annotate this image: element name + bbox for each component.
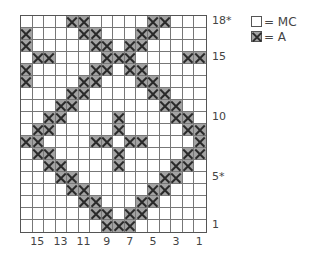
cell-contrast-a bbox=[90, 76, 102, 88]
cell-mc bbox=[113, 16, 125, 28]
cell-mc bbox=[67, 148, 79, 160]
cell-mc bbox=[194, 64, 206, 76]
cell-mc bbox=[79, 148, 91, 160]
cell-contrast-a bbox=[21, 136, 33, 148]
legend: = MC = A bbox=[251, 14, 297, 44]
cell-mc bbox=[125, 172, 137, 184]
cell-mc bbox=[67, 160, 79, 172]
cell-contrast-a bbox=[171, 112, 183, 124]
cell-mc bbox=[160, 52, 172, 64]
cell-mc bbox=[44, 220, 56, 232]
cell-mc bbox=[125, 124, 137, 136]
cell-contrast-a bbox=[125, 220, 137, 232]
cell-mc bbox=[171, 136, 183, 148]
cell-mc bbox=[136, 112, 148, 124]
cell-mc bbox=[102, 28, 114, 40]
cell-mc bbox=[160, 136, 172, 148]
cell-mc bbox=[67, 40, 79, 52]
cell-contrast-a bbox=[67, 16, 79, 28]
cell-mc bbox=[171, 148, 183, 160]
cell-mc bbox=[183, 136, 195, 148]
stitch-number-label: 3 bbox=[164, 235, 188, 248]
cell-mc bbox=[67, 76, 79, 88]
legend-label-mc: = MC bbox=[264, 15, 297, 29]
cell-mc bbox=[113, 76, 125, 88]
stitch-number-label: 13 bbox=[48, 235, 72, 248]
cell-mc bbox=[21, 208, 33, 220]
cell-mc bbox=[160, 148, 172, 160]
cell-contrast-a bbox=[113, 124, 125, 136]
cell-mc bbox=[113, 136, 125, 148]
cell-mc bbox=[67, 136, 79, 148]
cell-contrast-a bbox=[160, 100, 172, 112]
cell-contrast-a bbox=[79, 16, 91, 28]
cell-mc bbox=[148, 40, 160, 52]
cell-mc bbox=[79, 124, 91, 136]
cell-mc bbox=[171, 16, 183, 28]
cell-contrast-a bbox=[160, 88, 172, 100]
cell-mc bbox=[21, 160, 33, 172]
cell-mc bbox=[102, 184, 114, 196]
cell-mc bbox=[183, 16, 195, 28]
cell-mc bbox=[102, 16, 114, 28]
cell-contrast-a bbox=[79, 88, 91, 100]
cell-contrast-a bbox=[160, 16, 172, 28]
cell-mc bbox=[79, 112, 91, 124]
cell-contrast-a bbox=[183, 124, 195, 136]
stitch-number-label: 11 bbox=[72, 235, 96, 248]
cell-mc bbox=[136, 148, 148, 160]
cell-mc bbox=[125, 196, 137, 208]
cell-mc bbox=[194, 208, 206, 220]
cell-contrast-a bbox=[113, 148, 125, 160]
cell-mc bbox=[90, 148, 102, 160]
cell-contrast-a bbox=[79, 28, 91, 40]
cell-mc bbox=[125, 100, 137, 112]
cell-mc bbox=[113, 40, 125, 52]
cell-mc bbox=[171, 40, 183, 52]
legend-label-a: = A bbox=[264, 30, 286, 44]
cell-mc bbox=[194, 28, 206, 40]
cell-mc bbox=[183, 172, 195, 184]
cell-mc bbox=[171, 220, 183, 232]
cell-mc bbox=[21, 220, 33, 232]
cell-mc bbox=[33, 160, 45, 172]
contrast-a-swatch-icon bbox=[251, 31, 262, 42]
cell-mc bbox=[160, 112, 172, 124]
cell-mc bbox=[21, 124, 33, 136]
cell-contrast-a bbox=[125, 40, 137, 52]
cell-contrast-a bbox=[183, 52, 195, 64]
cell-mc bbox=[183, 220, 195, 232]
cell-mc bbox=[44, 100, 56, 112]
cell-contrast-a bbox=[90, 196, 102, 208]
cell-mc bbox=[113, 88, 125, 100]
cell-contrast-a bbox=[125, 64, 137, 76]
cell-mc bbox=[160, 124, 172, 136]
cell-mc bbox=[194, 16, 206, 28]
cell-contrast-a bbox=[90, 28, 102, 40]
cell-mc bbox=[56, 196, 68, 208]
cell-mc bbox=[183, 64, 195, 76]
row-number-label: 10 bbox=[212, 111, 226, 123]
cell-mc bbox=[56, 28, 68, 40]
cell-mc bbox=[33, 208, 45, 220]
cell-mc bbox=[33, 76, 45, 88]
cell-contrast-a bbox=[33, 148, 45, 160]
cell-contrast-a bbox=[90, 136, 102, 148]
cell-mc bbox=[160, 160, 172, 172]
cell-mc bbox=[183, 208, 195, 220]
cell-contrast-a bbox=[44, 124, 56, 136]
cell-mc bbox=[160, 76, 172, 88]
cell-contrast-a bbox=[56, 112, 68, 124]
cell-mc bbox=[44, 16, 56, 28]
cell-mc bbox=[56, 208, 68, 220]
cell-contrast-a bbox=[33, 136, 45, 148]
cell-mc bbox=[113, 196, 125, 208]
cell-mc bbox=[33, 196, 45, 208]
cell-contrast-a bbox=[148, 16, 160, 28]
cell-mc bbox=[194, 112, 206, 124]
cell-mc bbox=[171, 52, 183, 64]
cell-mc bbox=[56, 124, 68, 136]
stitch-number-label: 1 bbox=[187, 235, 211, 248]
cell-mc bbox=[79, 136, 91, 148]
cell-mc bbox=[56, 40, 68, 52]
